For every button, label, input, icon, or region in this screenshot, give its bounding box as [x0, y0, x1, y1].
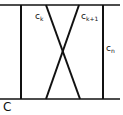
- label-cn-sub: n: [111, 47, 115, 54]
- label-C: C: [3, 101, 11, 113]
- label-ck1: ck+1: [81, 12, 98, 22]
- label-ck: ck: [35, 12, 43, 22]
- label-ck1-sub: k+1: [86, 15, 98, 22]
- label-ck-sub: k: [40, 15, 43, 22]
- braid-diagram: ck ck+1 cn C: [0, 0, 123, 115]
- label-cn: cn: [106, 44, 115, 54]
- diagram-lines: [0, 0, 123, 115]
